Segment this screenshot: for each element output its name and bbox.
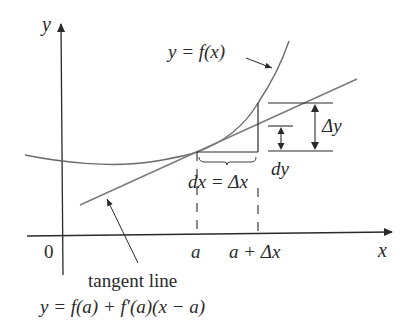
y-axis-label: y [42, 14, 51, 34]
dx-label: dx = Δx [188, 172, 248, 191]
tangent-line-label: tangent line [88, 271, 177, 290]
curve-label-pointer [246, 58, 272, 68]
tick-a-plus-dx-label: a + Δx [229, 242, 280, 261]
curve-label: y = f(x) [168, 42, 225, 61]
x-axis [27, 232, 392, 236]
dy-label: dy [271, 159, 289, 178]
dx-segment [197, 152, 258, 165]
tangent-label-pointer [107, 199, 138, 263]
dashed-drop-lines [197, 152, 258, 236]
differential-diagram: y x 0 a a + Δx y = f(x) dx = Δx dy Δy ta… [0, 0, 413, 335]
tangent-equation: y = f(a) + f′(a)(x − a) [40, 297, 205, 316]
tick-a-label: a [191, 242, 201, 261]
x-axis-label: x [378, 240, 387, 260]
y-axis [61, 24, 63, 275]
origin-label: 0 [44, 242, 54, 261]
delta-y-label: Δy [322, 116, 342, 135]
